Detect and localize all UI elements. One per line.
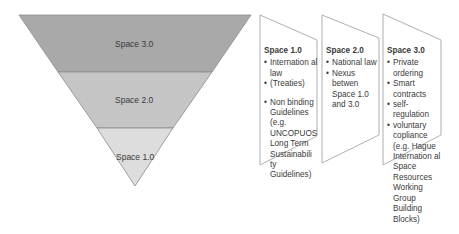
panel-space-1: Space 1.0 Internation al law (Treaties) …	[264, 46, 320, 181]
list-item: Internation al law	[264, 58, 320, 79]
panel-list: National law Nexus betwen Space 1.0 and …	[326, 58, 380, 110]
list-item: Nexus betwen Space 1.0 and 3.0	[326, 69, 380, 111]
list-item: self-regulation	[387, 100, 443, 121]
panel-space-2: Space 2.0 National law Nexus betwen Spac…	[326, 46, 380, 110]
panel-list: Private ordering Smart contracts self-re…	[387, 58, 443, 225]
list-item: Private ordering	[387, 58, 443, 79]
panel-list: Internation al law (Treaties) Non bindin…	[264, 58, 320, 180]
panel-title: Space 2.0	[326, 46, 380, 56]
panel-title: Space 3.0	[387, 46, 443, 56]
list-item: Non binding Guidelines (e.g. UNCOPUOS Lo…	[264, 98, 320, 181]
pyramid-label-space-1: Space 1.0	[116, 152, 154, 162]
list-item: National law	[326, 58, 380, 68]
list-item: voluntary copliance (e.g. Hague Internat…	[387, 121, 443, 225]
pyramid-label-space-2: Space 2.0	[115, 95, 153, 105]
list-item: (Treaties)	[264, 79, 320, 89]
list-item: Smart contracts	[387, 79, 443, 100]
pyramid-label-space-3: Space 3.0	[115, 39, 153, 49]
panel-title: Space 1.0	[264, 46, 320, 56]
panel-space-3: Space 3.0 Private ordering Smart contrac…	[387, 46, 443, 225]
